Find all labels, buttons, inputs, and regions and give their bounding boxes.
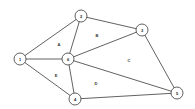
edge-2-6 <box>68 16 81 59</box>
node-6: 6 <box>62 53 74 65</box>
graph-diagram: A B C D E 1 2 3 6 4 5 <box>0 0 195 109</box>
edge-3-6 <box>68 30 142 59</box>
region-label-c: C <box>128 58 131 63</box>
region-label-e: E <box>55 73 58 78</box>
region-label-d: D <box>95 81 98 86</box>
edges <box>20 16 177 99</box>
node-4: 4 <box>69 93 81 105</box>
edge-1-2 <box>20 16 81 59</box>
node-5: 5 <box>171 87 183 99</box>
region-label-a: A <box>58 42 61 47</box>
node-3: 3 <box>136 24 148 36</box>
node-2: 2 <box>75 10 87 22</box>
region-label-b: B <box>96 33 99 38</box>
edge-2-3 <box>81 16 142 30</box>
edge-4-5 <box>75 93 177 99</box>
node-1: 1 <box>14 53 26 65</box>
